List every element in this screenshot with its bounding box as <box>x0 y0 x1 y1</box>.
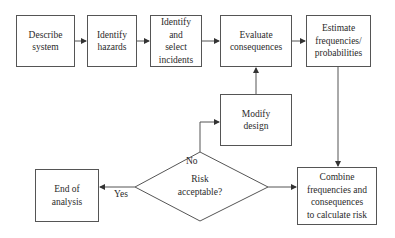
node-text: system <box>29 41 63 54</box>
node-text: Modify <box>242 108 271 121</box>
node-text: Identify <box>97 29 127 42</box>
node-text: analysis <box>52 196 83 209</box>
node-text: frequencies and <box>307 184 367 197</box>
node-text: design <box>242 120 271 133</box>
node-text: Identify and <box>153 16 199 41</box>
node-text: select <box>153 41 199 54</box>
node-text: consequences <box>230 41 282 54</box>
edge-label-no: No <box>186 156 198 167</box>
node-identify-hazards: Identifyhazards <box>87 15 137 67</box>
node-text: hazards <box>97 41 127 54</box>
node-text: probabilities <box>315 47 363 60</box>
node-text: consequences <box>307 196 367 209</box>
node-identify-select-incidents: Identify andselectincidents <box>150 15 202 67</box>
node-combine-calculate-risk: Combinefrequencies andconsequencesto cal… <box>297 167 377 225</box>
node-text: acceptable? <box>160 187 240 198</box>
node-text: Risk <box>160 174 240 185</box>
node-modify-design: Modifydesign <box>220 94 292 146</box>
node-text: to calculate risk <box>307 209 367 222</box>
node-estimate-frequencies: Estimatefrequencies/probabilities <box>306 15 371 67</box>
node-describe-system: Describesystem <box>16 15 75 67</box>
node-text: End of <box>52 183 83 196</box>
node-end-of-analysis: End ofanalysis <box>35 169 99 222</box>
node-evaluate-consequences: Evaluateconsequences <box>220 15 292 67</box>
node-text: frequencies/ <box>315 35 363 48</box>
node-text: Combine <box>307 171 367 184</box>
edge-label-yes: Yes <box>114 189 128 200</box>
node-text: Describe <box>29 29 63 42</box>
risk-analysis-flowchart: Describesystem Identifyhazards Identify … <box>0 0 395 238</box>
node-text: Estimate <box>315 22 363 35</box>
node-text: Evaluate <box>230 29 282 42</box>
node-risk-acceptable-text: Risk acceptable? <box>160 174 240 198</box>
node-text: incidents <box>153 54 199 67</box>
arrow-no-to-modify <box>200 122 219 152</box>
